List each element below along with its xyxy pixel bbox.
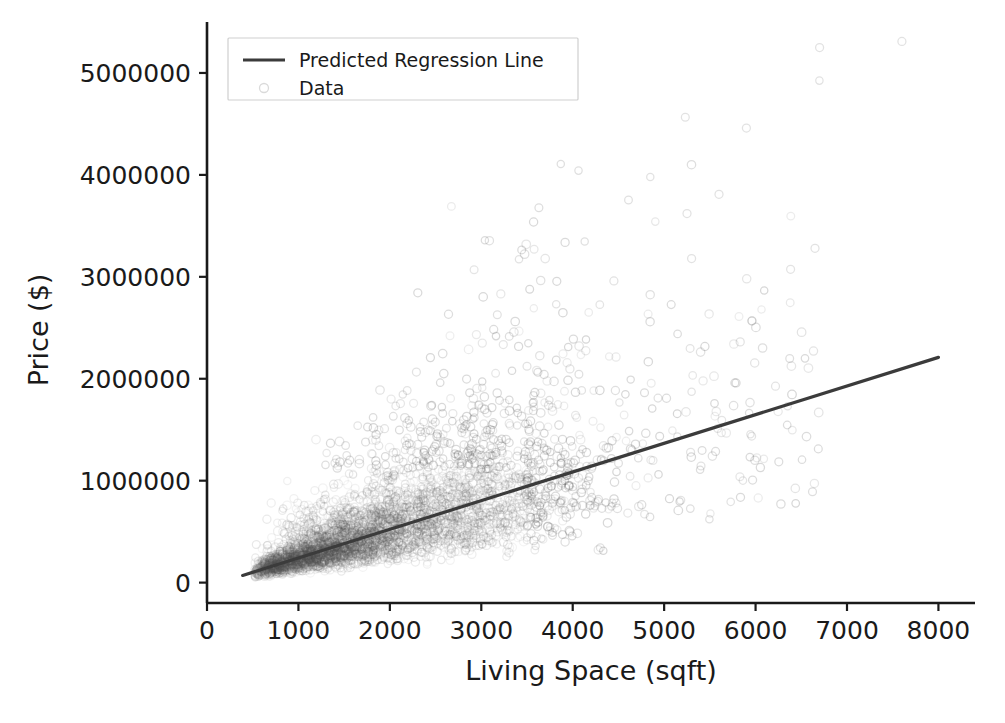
legend-label-data: Data: [299, 77, 344, 99]
x-tick-label-3000: 3000: [449, 616, 513, 645]
x-tick-label-6000: 6000: [724, 616, 788, 645]
y-tick-label-0: 0: [175, 569, 191, 598]
x-axis-title: Living Space (sqft): [465, 655, 717, 686]
x-tick-label-1000: 1000: [267, 616, 331, 645]
x-tick-label-5000: 5000: [632, 616, 696, 645]
y-tick-label-2000000: 2000000: [80, 365, 191, 394]
y-tick-label-3000000: 3000000: [80, 263, 191, 292]
x-tick-label-8000: 8000: [907, 616, 971, 645]
scatter-plot-canvas: 010002000300040005000600070008000 010000…: [0, 0, 1005, 723]
y-tick-label-4000000: 4000000: [80, 161, 191, 190]
x-tick-label-0: 0: [199, 616, 215, 645]
chart-legend[interactable]: Predicted Regression Line Data: [228, 38, 578, 100]
x-tick-label-4000: 4000: [541, 616, 605, 645]
chart-figure: 010002000300040005000600070008000 010000…: [0, 0, 1005, 723]
figure-background: [0, 0, 1005, 723]
x-tick-label-7000: 7000: [815, 616, 879, 645]
y-axis-title: Price ($): [23, 274, 54, 387]
legend-label-regression: Predicted Regression Line: [299, 49, 544, 71]
x-axis-tick-labels: 010002000300040005000600070008000: [199, 616, 970, 645]
y-tick-label-5000000: 5000000: [80, 59, 191, 88]
x-tick-label-2000: 2000: [358, 616, 422, 645]
y-tick-label-1000000: 1000000: [80, 467, 191, 496]
